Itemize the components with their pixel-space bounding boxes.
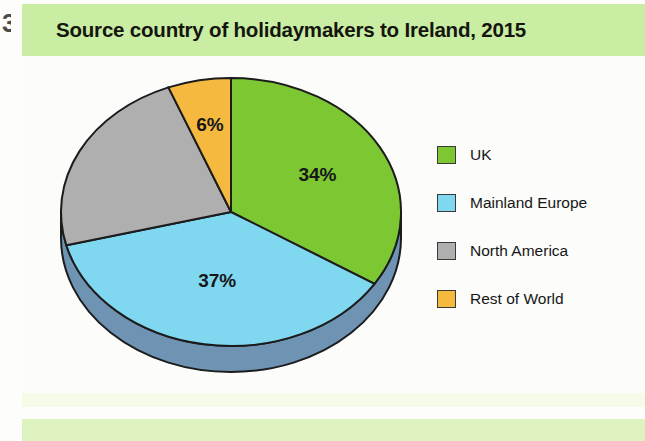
pie-slice-label: 6% (196, 114, 224, 135)
chart-legend: UKMainland EuropeNorth AmericaRest of Wo… (437, 144, 645, 336)
legend-swatch-icon (437, 290, 456, 308)
legend-swatch-icon (437, 194, 456, 212)
legend-swatch-icon (437, 146, 456, 164)
page-edge-artifact: 3 (2, 8, 11, 38)
pie-slices (61, 78, 401, 346)
legend-item-label: Mainland Europe (470, 194, 587, 212)
legend-item-label: UK (470, 146, 492, 164)
pie-slice-label: 34% (298, 164, 336, 185)
pie-chart: 34%37%6% (22, 56, 442, 393)
figure-page: 3 Source country of holidaymakers to Ire… (0, 0, 645, 441)
next-section-band (22, 419, 645, 441)
legend-item-label: Rest of World (470, 290, 564, 308)
section-spacer (22, 393, 645, 407)
legend-swatch-icon (437, 242, 456, 260)
legend-item[interactable]: Rest of World (437, 288, 645, 310)
page-title: Source country of holidaymakers to Irela… (56, 18, 526, 42)
chart-area: 34%37%6% UKMainland EuropeNorth AmericaR… (22, 56, 645, 393)
pie-chart-svg: 34%37%6% (22, 56, 442, 393)
pie-slice-label: 37% (198, 270, 236, 291)
legend-item[interactable]: Mainland Europe (437, 192, 645, 214)
legend-item-label: North America (470, 242, 568, 260)
legend-item[interactable]: UK (437, 144, 645, 166)
legend-item[interactable]: North America (437, 240, 645, 262)
chart-title-band: Source country of holidaymakers to Irela… (22, 4, 645, 56)
